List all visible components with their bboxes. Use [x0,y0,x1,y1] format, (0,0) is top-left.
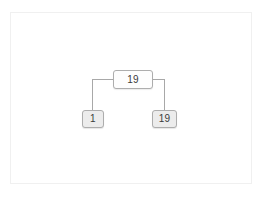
tree-node-right-child[interactable]: 19 [152,110,177,128]
edge-root-to-right [153,80,165,111]
diagram-canvas: 19 1 19 [0,0,264,198]
tree-node-left-child-label: 1 [90,114,96,124]
tree-node-left-child[interactable]: 1 [82,110,104,128]
edge-root-to-left [93,80,114,111]
tree-node-root-label: 19 [127,75,139,85]
tree-node-root[interactable]: 19 [113,70,153,89]
tree-connectors [0,0,264,198]
tree-node-right-child-label: 19 [159,114,171,124]
